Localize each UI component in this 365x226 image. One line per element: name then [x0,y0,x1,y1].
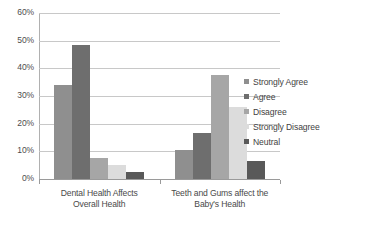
legend-item[interactable]: Disagree [244,104,362,119]
legend-label: Agree [253,92,275,102]
bar-chart: 60%50%40%30%20%10%0% Dental Health Affec… [0,0,365,226]
legend-item[interactable]: Agree [244,89,362,104]
category-label-line: Teeth and Gums affect the [160,188,281,199]
bar [175,150,193,179]
x-axis-category-label: Dental Health AffectsOverall Health [39,188,160,210]
legend-swatch-icon [244,109,249,114]
x-axis-tick [39,180,40,184]
x-axis-tick [280,180,281,184]
category-label-line: Baby's Health [160,199,281,210]
chart-legend: Strongly AgreeAgreeDisagreeStrongly Disa… [244,74,362,149]
x-axis-tick [160,180,161,184]
legend-item[interactable]: Strongly Disagree [244,119,362,134]
y-axis-tick-label: 0% [22,174,34,183]
bar-group [39,13,160,179]
legend-label: Strongly Agree [253,77,308,87]
y-axis-labels: 60%50%40%30%20%10%0% [0,0,38,226]
y-axis-tick-label: 40% [17,63,34,72]
legend-item[interactable]: Neutral [244,134,362,149]
category-label-line: Dental Health Affects [39,188,160,199]
bar [126,172,144,179]
y-axis-tick-label: 60% [17,8,34,17]
legend-label: Neutral [253,137,280,147]
y-axis-tick-label: 10% [17,146,34,155]
bar [90,158,108,179]
bar [72,45,90,179]
y-axis-tick-label: 20% [17,119,34,128]
legend-swatch-icon [244,139,249,144]
bar [108,165,126,179]
bar [193,133,211,179]
legend-label: Disagree [253,107,287,117]
y-axis-tick-label: 30% [17,91,34,100]
legend-item[interactable]: Strongly Agree [244,74,362,89]
legend-label: Strongly Disagree [253,122,320,132]
legend-swatch-icon [244,124,249,129]
legend-swatch-icon [244,79,249,84]
legend-swatch-icon [244,94,249,99]
bar [54,85,72,179]
bar [211,75,229,179]
x-axis-category-label: Teeth and Gums affect theBaby's Health [160,188,281,210]
bar [247,161,265,179]
category-label-line: Overall Health [39,199,160,210]
y-axis-tick-label: 50% [17,36,34,45]
